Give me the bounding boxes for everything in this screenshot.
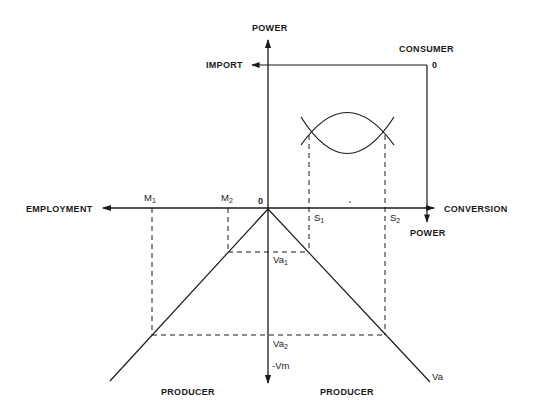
speck-dot	[349, 201, 351, 203]
point-va2: Va2	[273, 338, 288, 350]
point-s2: S2	[390, 212, 400, 224]
consumer-zero-label: 0	[432, 60, 437, 70]
consumer-label: CONSUMER	[399, 44, 454, 54]
conversion-label: CONVERSION	[444, 204, 508, 214]
producer-label-left: PRODUCER	[161, 387, 215, 397]
point-m1: M1	[144, 192, 156, 204]
point-s1: S1	[314, 212, 324, 224]
producer-label-right: PRODUCER	[320, 387, 374, 397]
power-axis-label-right: POWER	[410, 228, 446, 238]
producer-line-left	[110, 209, 268, 381]
point-va: Va	[432, 371, 443, 382]
power-axis-label-top: POWER	[252, 23, 288, 33]
lower-arc	[301, 117, 394, 154]
upper-arc	[301, 113, 394, 146]
producer-line-right	[268, 209, 430, 382]
employment-label: EMPLOYMENT	[26, 204, 93, 214]
origin-label: 0	[258, 196, 263, 206]
point-m2: M2	[221, 192, 233, 204]
import-label: IMPORT	[206, 60, 243, 70]
point-va1: Va1	[273, 254, 288, 266]
point-vm: -Vm	[272, 360, 289, 371]
